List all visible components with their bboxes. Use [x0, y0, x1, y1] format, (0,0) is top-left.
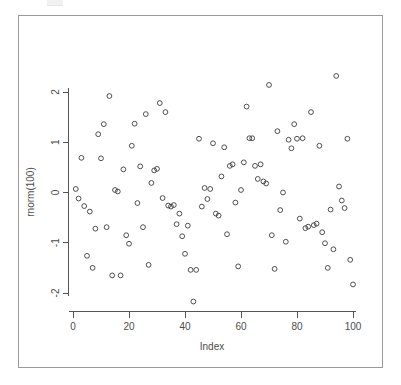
data-point	[351, 282, 356, 287]
data-point	[104, 225, 109, 230]
plot-window: 020406080100 -2-1012 Index rnorm(100)	[0, 0, 401, 385]
data-point	[188, 267, 193, 272]
data-point	[149, 181, 154, 186]
data-point	[93, 226, 98, 231]
data-point	[275, 129, 280, 134]
data-point	[87, 209, 92, 214]
data-point	[348, 257, 353, 262]
data-point	[174, 222, 179, 227]
data-point	[323, 241, 328, 246]
x-tick-label: 20	[123, 321, 135, 332]
x-tick-label: 0	[70, 321, 76, 332]
data-point	[219, 174, 224, 179]
data-point	[191, 299, 196, 304]
data-point	[163, 110, 168, 115]
data-point	[292, 122, 297, 127]
data-point	[255, 177, 260, 182]
data-point	[225, 232, 230, 237]
data-point	[205, 197, 210, 202]
data-point	[183, 251, 188, 256]
data-point	[267, 83, 272, 88]
data-point	[110, 273, 115, 278]
data-point	[345, 136, 350, 141]
data-point	[233, 200, 238, 205]
data-point	[281, 190, 286, 195]
data-point	[160, 196, 165, 201]
data-point	[300, 136, 305, 141]
data-point	[143, 112, 148, 117]
data-point	[222, 145, 227, 150]
data-point	[194, 267, 199, 272]
data-point	[166, 203, 171, 208]
data-point	[339, 198, 344, 203]
data-point	[269, 233, 274, 238]
data-point	[185, 223, 190, 228]
data-point	[295, 136, 300, 141]
y-tick-label: -2	[50, 288, 61, 297]
data-point	[124, 233, 129, 238]
data-point	[129, 143, 134, 148]
data-point	[236, 264, 241, 269]
data-point	[253, 163, 258, 168]
data-point	[258, 162, 263, 167]
data-point	[297, 216, 302, 221]
data-point	[208, 187, 213, 192]
data-point	[135, 201, 140, 206]
scatter-plot: 020406080100 -2-1012 Index rnorm(100)	[0, 0, 401, 385]
data-point	[272, 266, 277, 271]
data-point	[85, 253, 90, 258]
data-point	[121, 167, 126, 172]
data-point	[79, 155, 84, 160]
x-axis-title: Index	[200, 341, 224, 352]
data-point	[146, 262, 151, 267]
data-point	[99, 156, 104, 161]
data-point	[177, 211, 182, 216]
data-point	[90, 265, 95, 270]
x-axis-ticks: 020406080100	[70, 312, 362, 333]
x-tick-label: 80	[291, 321, 303, 332]
data-point	[107, 94, 112, 99]
data-point	[317, 143, 322, 148]
data-point	[342, 206, 347, 211]
data-point	[199, 204, 204, 209]
y-tick-label: 1	[50, 139, 61, 145]
data-point	[325, 265, 330, 270]
x-tick-label: 60	[235, 321, 247, 332]
data-point	[239, 188, 244, 193]
data-point	[334, 74, 339, 79]
y-tick-label: 0	[50, 189, 61, 195]
y-axis-ticks: -2-1012	[50, 89, 69, 298]
x-tick-label: 100	[345, 321, 362, 332]
data-point	[241, 160, 246, 165]
data-point	[202, 186, 207, 191]
data-point	[138, 164, 143, 169]
data-point	[180, 234, 185, 239]
data-point	[157, 101, 162, 106]
data-point	[289, 146, 294, 151]
data-point	[132, 121, 137, 126]
data-point	[337, 184, 342, 189]
data-point	[118, 273, 123, 278]
data-point	[309, 110, 314, 115]
data-point	[73, 187, 78, 192]
y-axis-title: rnorm(100)	[25, 167, 36, 216]
data-points-group	[73, 74, 355, 304]
data-point	[82, 204, 87, 209]
data-point	[211, 141, 216, 146]
data-point	[278, 208, 283, 213]
data-point	[141, 225, 146, 230]
data-point	[101, 122, 106, 127]
y-tick-label: 2	[50, 89, 61, 95]
data-point	[286, 137, 291, 142]
data-point	[331, 247, 336, 252]
plot-axes: 020406080100 -2-1012	[50, 88, 362, 332]
data-point	[96, 132, 101, 137]
y-tick-label: -1	[50, 238, 61, 247]
data-point	[76, 196, 81, 201]
data-point	[127, 241, 132, 246]
data-point	[328, 207, 333, 212]
data-point	[320, 230, 325, 235]
data-point	[244, 104, 249, 109]
data-point	[197, 136, 202, 141]
x-tick-label: 40	[179, 321, 191, 332]
